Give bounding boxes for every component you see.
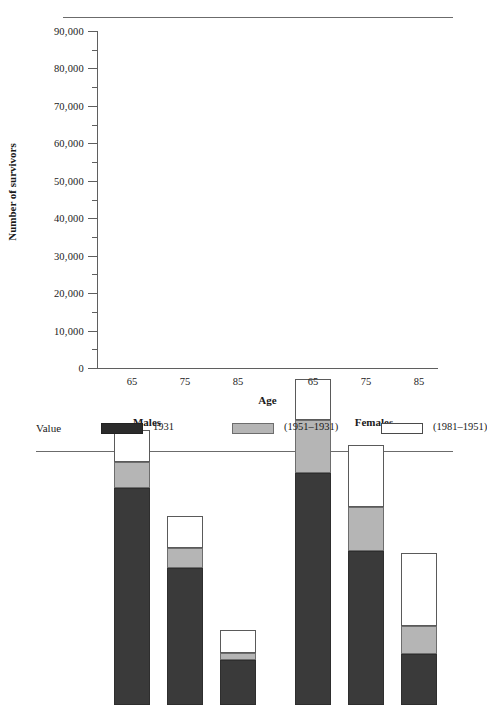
y-tick-label: 20,000 (54, 288, 84, 299)
y-tick-major (88, 143, 97, 144)
segment-1931 (220, 660, 256, 705)
y-tick-label: 40,000 (54, 213, 84, 224)
bottom-rule (36, 451, 453, 452)
segment-1981-1951 (348, 445, 384, 507)
y-tick-label: 0 (79, 363, 84, 374)
dark-swatch (101, 423, 143, 434)
y-axis-line (97, 31, 98, 368)
y-tick-label: 10,000 (54, 325, 84, 336)
x-tick-label: 75 (348, 376, 384, 387)
segment-1931 (167, 568, 203, 705)
y-tick-label: 30,000 (54, 250, 84, 261)
x-axis-line (97, 368, 438, 369)
legend-title: Value (36, 422, 61, 434)
y-tick-major (88, 68, 97, 69)
segment-1931 (114, 488, 150, 705)
y-tick-label: 60,000 (54, 138, 84, 149)
x-tick-label: 65 (114, 376, 150, 387)
segment-1931 (401, 654, 437, 705)
segment-1931 (295, 473, 331, 705)
y-tick-label: 70,000 (54, 100, 84, 111)
segment-1951-1931 (401, 626, 437, 654)
segment-1981-1951 (167, 516, 203, 548)
y-tick-minor (92, 125, 97, 126)
y-tick-label: 50,000 (54, 175, 84, 186)
y-tick-minor (92, 50, 97, 51)
top-rule (63, 17, 453, 18)
x-axis-title: Age (97, 394, 438, 406)
legend: Value 1931 (1951–1931) (1981–1951) (36, 420, 453, 438)
x-tick-label: 65 (295, 376, 331, 387)
segment-1951-1931 (167, 548, 203, 569)
legend-label-1931: 1931 (153, 421, 174, 432)
segment-1981-1951 (220, 630, 256, 652)
y-tick-minor (92, 312, 97, 313)
y-tick-major (88, 331, 97, 332)
x-tick-label: 75 (167, 376, 203, 387)
segment-1931 (348, 551, 384, 705)
gray-swatch (232, 423, 274, 434)
legend-label-1951-1931: (1951–1931) (284, 421, 338, 432)
y-tick-minor (92, 237, 97, 238)
segment-1951-1931 (220, 653, 256, 660)
legend-label-1981-1951: (1981–1951) (433, 421, 487, 432)
y-tick-major (88, 106, 97, 107)
y-tick-major (88, 181, 97, 182)
y-tick-major (88, 256, 97, 257)
y-tick-label: 90,000 (54, 26, 84, 37)
white-swatch (381, 423, 423, 434)
segment-1981-1951 (401, 553, 437, 626)
y-tick-minor (92, 200, 97, 201)
y-axis-title: Number of survivors (6, 143, 18, 241)
y-tick-major (88, 368, 97, 369)
y-tick-major (88, 293, 97, 294)
x-tick-label: 85 (220, 376, 256, 387)
plot-area: 90,00080,00070,00060,00050,00040,00030,0… (97, 31, 438, 368)
y-tick-major (88, 31, 97, 32)
y-tick-minor (92, 274, 97, 275)
y-tick-label: 80,000 (54, 63, 84, 74)
y-tick-minor (92, 87, 97, 88)
segment-1951-1931 (114, 462, 150, 488)
segment-1951-1931 (348, 507, 384, 552)
x-tick-label: 85 (401, 376, 437, 387)
y-tick-minor (92, 349, 97, 350)
y-tick-major (88, 218, 97, 219)
y-tick-minor (92, 162, 97, 163)
